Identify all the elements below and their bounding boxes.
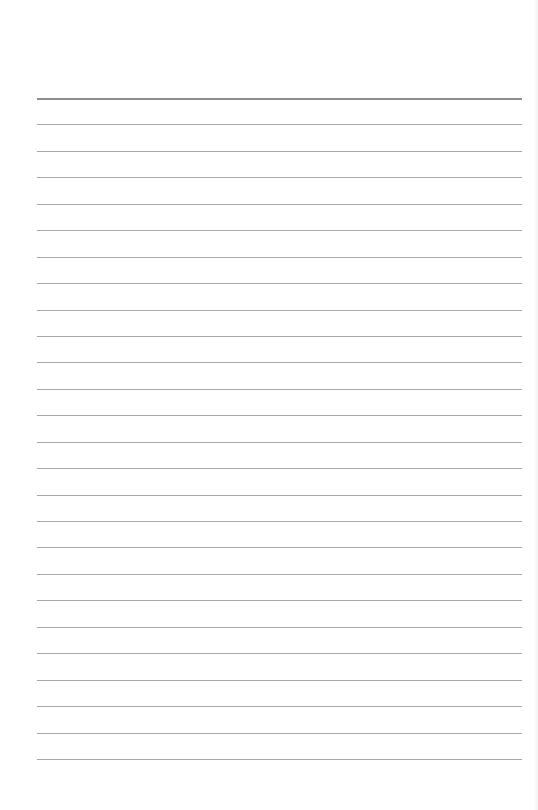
ruled-line bbox=[37, 257, 522, 258]
ruled-line bbox=[37, 521, 522, 522]
ruled-line bbox=[37, 124, 522, 125]
ruled-line bbox=[37, 468, 522, 469]
ruled-line bbox=[37, 600, 522, 601]
ruled-line bbox=[37, 336, 522, 337]
ruled-line bbox=[37, 706, 522, 707]
ruled-line bbox=[37, 362, 522, 363]
ruled-line bbox=[37, 177, 522, 178]
ruled-line bbox=[37, 204, 522, 205]
lined-paper-page bbox=[0, 0, 538, 810]
ruled-line bbox=[37, 627, 522, 628]
ruled-line bbox=[37, 442, 522, 443]
ruled-line bbox=[37, 98, 522, 100]
ruled-line bbox=[37, 495, 522, 496]
ruled-line bbox=[37, 389, 522, 390]
ruled-line bbox=[37, 547, 522, 548]
ruled-line bbox=[37, 574, 522, 575]
ruled-line bbox=[37, 283, 522, 284]
ruled-line bbox=[37, 151, 522, 152]
ruled-line bbox=[37, 680, 522, 681]
ruled-line bbox=[37, 415, 522, 416]
ruled-line bbox=[37, 733, 522, 734]
ruled-line bbox=[37, 759, 522, 760]
ruled-line bbox=[37, 230, 522, 231]
page-edge-shadow bbox=[534, 0, 538, 810]
ruled-line bbox=[37, 310, 522, 311]
ruled-line bbox=[37, 653, 522, 654]
